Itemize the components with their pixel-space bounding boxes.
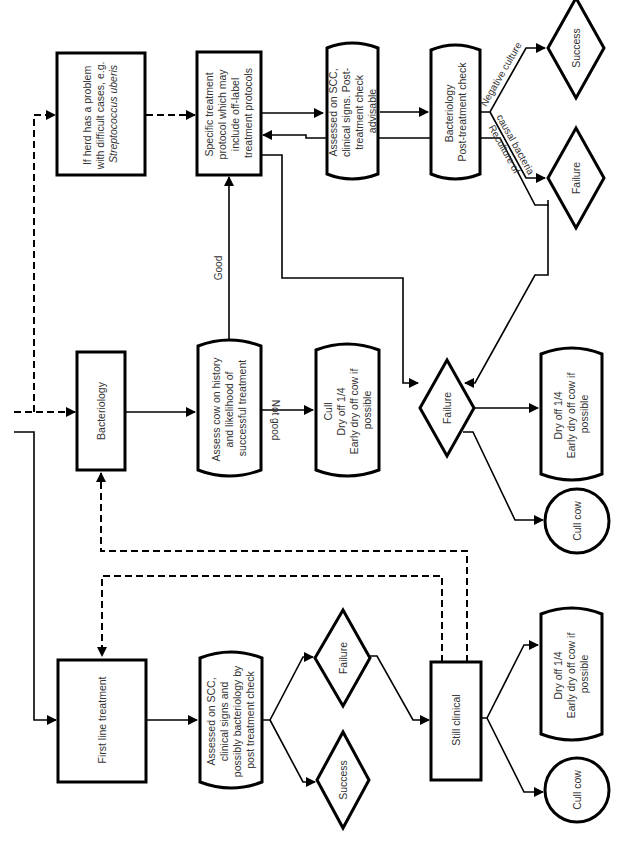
label-cull-cow-mid: Cull cow [571, 501, 583, 541]
label-specific-treatment: Specific treatment protocol which may in… [203, 67, 254, 160]
label-failure-mid: Failure [441, 392, 453, 424]
edge-failure-mid-to-cull [463, 432, 543, 520]
edge-start-to-herd [34, 115, 55, 412]
edge-still-to-dryoff [482, 645, 538, 718]
edge-assessed-to-failure [263, 657, 313, 720]
mastitis-treatment-flowchart: If herd has a problem with difficult cas… [0, 0, 617, 848]
label-not-good: Not good [270, 400, 281, 441]
label-bacteriology: Bacteriology [95, 381, 107, 440]
label-negative-culture: Negative culture [478, 40, 524, 108]
label-cull-cow-low: Cull cow [571, 770, 583, 810]
label-herd-problem: If herd has a problem with difficult cas… [81, 59, 119, 171]
edge-failure-to-still-clinical [370, 656, 429, 720]
label-assessed-first: Assessed on SCC, clinical signs and poss… [205, 663, 256, 777]
label-reculture: Reculture of causal bacteria [484, 112, 537, 182]
edge-failure-top-to-failure-mid [465, 205, 548, 383]
edge-assessed-to-success [270, 720, 315, 782]
label-failure-top: Failure [570, 162, 582, 194]
edge-still-to-bacteriology [101, 473, 467, 662]
label-first-line: First line treatment [96, 676, 108, 763]
label-assess-history: Assess cow on history and likelihood of … [210, 355, 248, 462]
edge-start-to-first-line [14, 432, 56, 720]
label-good: Good [213, 256, 224, 280]
label-success-top: Success [570, 28, 582, 68]
edge-still-to-cull [487, 718, 543, 792]
label-success-low: Success [337, 760, 349, 800]
label-still-clinical: Still clinical [450, 694, 462, 745]
label-failure-low: Failure [337, 642, 349, 674]
edge-still-to-first-line [102, 576, 442, 662]
